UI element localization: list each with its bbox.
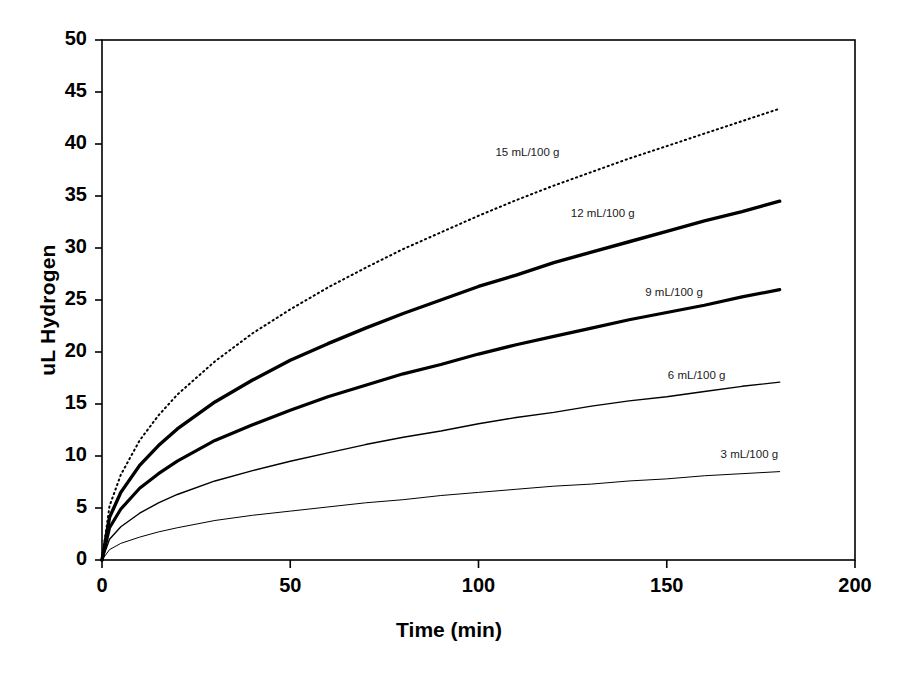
y-tick-label: 5 (21, 495, 87, 518)
x-tick-label: 0 (62, 574, 142, 597)
y-axis-title: uL Hydrogen (36, 200, 60, 420)
y-tick-label: 45 (21, 79, 87, 102)
x-tick-label: 200 (815, 574, 895, 597)
chart-figure: uL Hydrogen Time (min) 50454035302520151… (0, 0, 898, 675)
y-tick-label: 40 (21, 131, 87, 154)
series-label: 15 mL/100 g (495, 146, 559, 158)
y-tick-label: 0 (21, 547, 87, 570)
y-tick-label: 10 (21, 443, 87, 466)
x-tick-label: 50 (250, 574, 330, 597)
y-tick-label: 20 (21, 339, 87, 362)
y-tick-label: 50 (21, 27, 87, 50)
x-tick-label: 150 (627, 574, 707, 597)
y-tick-label: 25 (21, 287, 87, 310)
series-label: 12 mL/100 g (571, 207, 635, 219)
series-label: 6 mL/100 g (668, 369, 726, 381)
y-tick-label: 35 (21, 183, 87, 206)
y-tick-label: 15 (21, 391, 87, 414)
y-tick-label: 30 (21, 235, 87, 258)
x-tick-label: 100 (439, 574, 519, 597)
series-label: 9 mL/100 g (645, 286, 703, 298)
series-label: 3 mL/100 g (721, 448, 779, 460)
x-axis-title: Time (min) (0, 618, 898, 642)
